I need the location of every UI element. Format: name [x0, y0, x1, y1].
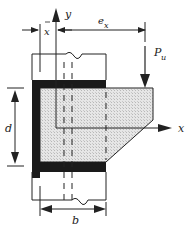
lower-member [32, 172, 106, 205]
load-subscript: u [161, 53, 166, 62]
gusset-plate [40, 88, 153, 162]
depth-label: d [5, 122, 12, 135]
y-axis-label: y [64, 8, 72, 21]
xbar-label: x [44, 26, 50, 37]
connection-diagram: y x x e x P u d b [0, 0, 189, 228]
width-label: b [72, 214, 79, 227]
ex-subscript: x [104, 21, 109, 30]
width-dimension [40, 186, 106, 216]
load-arrow [140, 46, 150, 88]
x-axis-label: x [178, 122, 185, 135]
upper-member [32, 52, 106, 80]
